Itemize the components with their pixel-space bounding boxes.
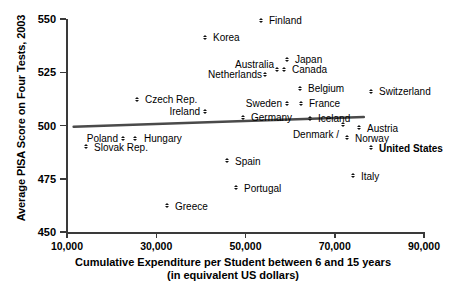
data-point-label: Spain [235,157,261,167]
data-point [263,72,267,74]
x-tick-label: 30,000 [126,240,186,252]
data-point [165,203,169,205]
x-tick-label: 50,000 [216,240,276,252]
data-point-label: Netherlands [208,70,262,80]
data-point-label: Belgium [308,84,344,94]
data-point [275,67,279,69]
data-point-label: France [309,99,340,109]
data-point [282,67,286,69]
data-point-label: Denmark / [293,130,339,140]
x-axis-title: Cumulative Expenditure per Student betwe… [0,256,466,282]
data-point [203,35,207,37]
data-point [135,97,139,99]
data-point [299,101,303,103]
data-point-label: Italy [361,172,379,182]
x-tick [423,232,425,238]
data-point [133,136,137,138]
x-tick [156,232,158,238]
data-point-label: Slovak Rep. [94,143,148,153]
data-point-label: Korea [213,33,240,43]
data-point-label: Finland [269,16,302,26]
data-point-label: Hungary [144,134,182,144]
data-point [345,135,349,137]
data-point [341,122,345,124]
data-point [369,89,373,91]
y-tick [60,72,66,74]
data-point [351,173,355,175]
data-point [285,101,289,103]
data-point [241,115,245,117]
x-tick-label: 70,000 [305,240,365,252]
y-tick [60,18,66,20]
data-point [84,144,88,146]
x-tick-label: 90,000 [394,240,454,252]
data-point-label: Czech Rep. [145,95,197,105]
data-point-label: Ireland [169,107,200,117]
y-tick-label: 525 [22,66,56,78]
data-point-label: Sweden [246,99,282,109]
y-tick-label: 450 [22,226,56,238]
data-point-label: Greece [175,202,208,212]
y-tick-label: 500 [22,120,56,132]
x-axis-title-line2: (in equivalent US dollars) [0,269,466,282]
x-tick [66,232,68,238]
data-point [225,158,229,160]
data-point-label: Iceland [318,114,350,124]
data-point-label: Germany [251,113,292,123]
y-tick [60,178,66,180]
y-tick-label: 550 [22,13,56,25]
data-point-label: United States [379,144,443,154]
x-axis-title-line1: Cumulative Expenditure per Student betwe… [75,256,391,268]
data-point [121,136,125,138]
data-point-label: Portugal [244,184,281,194]
x-tick [334,232,336,238]
x-tick-label: 10,000 [37,240,97,252]
data-point-label: Canada [292,65,327,75]
x-tick [245,232,247,238]
data-point [285,57,289,59]
y-tick [60,125,66,127]
scatter-chart: Average PISA Score on Four Tests, 2003 4… [0,0,466,283]
data-point [259,18,263,20]
data-point [369,145,373,147]
data-point-label: Switzerland [379,87,431,97]
data-point [203,109,207,111]
y-tick [60,231,66,233]
data-point [357,125,361,127]
y-axis-line [66,19,68,233]
y-tick-label: 475 [22,173,56,185]
data-point [234,185,238,187]
data-point [308,116,312,118]
data-point [298,86,302,88]
